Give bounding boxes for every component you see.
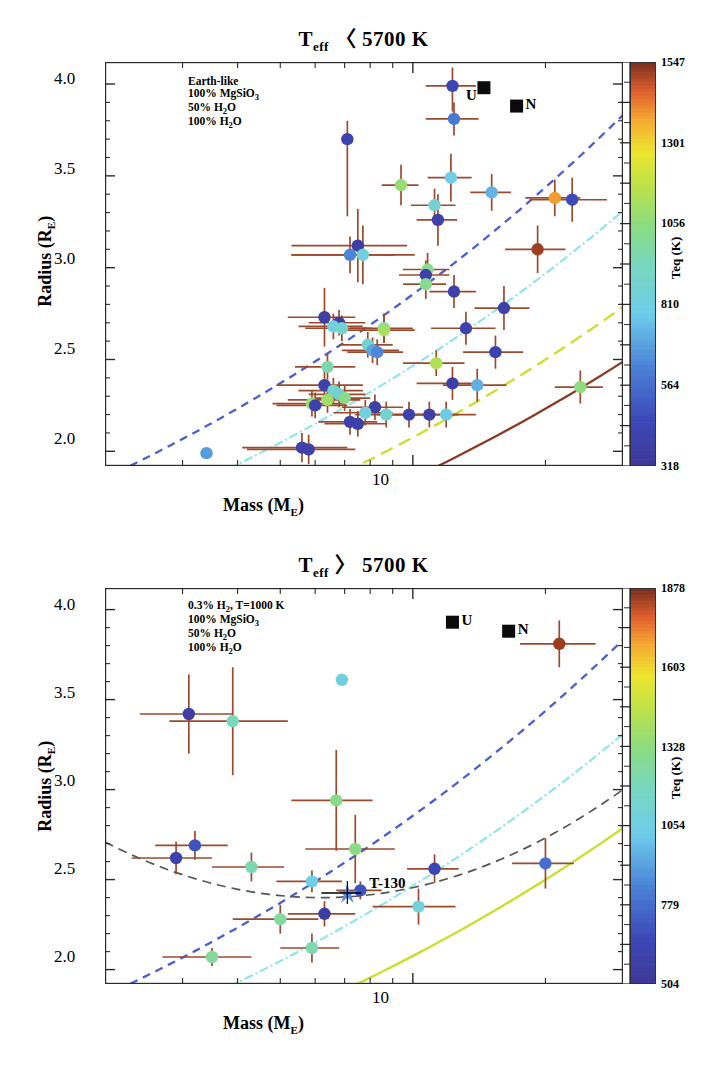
ylabel-sub: E — [45, 747, 57, 754]
data-point — [206, 951, 218, 963]
panel-top-title-sub: eff — [313, 39, 329, 54]
panel-bottom: Teff 〉 5700 K Radius (RE) Mass (ME) 4.0 … — [0, 530, 727, 1050]
data-point — [336, 322, 348, 334]
data-point — [336, 674, 348, 686]
ytick-label: 3.5 — [54, 159, 75, 179]
xlabel-sub: E — [291, 506, 298, 518]
data-point — [274, 913, 286, 925]
data-point — [352, 418, 364, 430]
panel-bottom-title-sub: eff — [313, 565, 329, 580]
panel-top-plot-area — [105, 62, 623, 466]
data-point — [420, 278, 432, 290]
ylabel-sub: E — [45, 222, 57, 229]
xlabel-sub: E — [291, 1024, 298, 1036]
data-point — [485, 186, 497, 198]
colorbar-tick-label: 1603 — [661, 660, 685, 675]
data-point — [354, 884, 366, 896]
data-point — [189, 839, 201, 851]
data-point — [445, 171, 457, 183]
data-point — [460, 322, 472, 334]
colorbar-tick-label: 318 — [661, 459, 679, 474]
data-point — [498, 302, 510, 314]
xtick-label: 10 — [372, 470, 389, 490]
data-point — [446, 377, 458, 389]
solar-system-marker — [502, 625, 515, 638]
colorbar-tick-label: 1301 — [661, 136, 685, 151]
data-point — [428, 863, 440, 875]
panel-bottom-plot-area — [105, 588, 623, 984]
ylabel-close: ) — [35, 216, 55, 222]
data-point — [489, 346, 501, 358]
data-point — [306, 942, 318, 954]
data-point — [170, 852, 182, 864]
data-point — [380, 408, 392, 420]
panel-top-colorbar-label: Teq (K) — [668, 213, 684, 303]
xlabel-text: Mass (M — [223, 495, 290, 515]
data-point — [200, 447, 212, 459]
data-point — [448, 285, 460, 297]
data-point — [318, 311, 330, 323]
colorbar-tick-label: 779 — [661, 898, 679, 913]
data-point — [432, 214, 444, 226]
data-point — [344, 249, 356, 261]
data-point — [371, 346, 383, 358]
data-point — [549, 192, 561, 204]
ytick-label: 2.0 — [54, 429, 75, 449]
panel-bottom-title-rest: 〉 5700 K — [335, 553, 429, 577]
data-point — [553, 638, 565, 650]
data-point — [359, 407, 371, 419]
colorbar-axis — [616, 588, 631, 984]
point-annotation: N — [526, 96, 537, 113]
solar-system-marker — [446, 616, 459, 629]
data-point — [395, 179, 407, 191]
panel-top-xlabel: Mass (ME) — [0, 495, 627, 518]
data-point — [403, 408, 415, 420]
ytick-label: 4.0 — [54, 69, 75, 89]
colorbar-tick-label: 564 — [661, 378, 679, 393]
xlabel-close: ) — [298, 495, 304, 515]
ylabel-text: Radius (R — [35, 229, 55, 307]
ytick-label: 2.5 — [54, 859, 75, 879]
panel-bottom-title-main: T — [298, 553, 313, 577]
panel-bottom-title: Teff 〉 5700 K — [0, 548, 727, 581]
panel-bottom-colorbar-label: Teq (K) — [668, 733, 684, 823]
data-point — [448, 113, 460, 125]
data-point — [531, 243, 543, 255]
panel-bottom-xlabel: Mass (ME) — [0, 1013, 627, 1036]
ytick-label: 2.5 — [54, 339, 75, 359]
data-point — [378, 324, 390, 336]
panel-top-title-main: T — [298, 27, 313, 51]
data-point — [349, 843, 361, 855]
data-point — [341, 133, 353, 145]
xlabel-close: ) — [298, 1013, 304, 1033]
panel-bottom-colorbar — [630, 588, 656, 984]
xtick-label: 10 — [372, 988, 389, 1008]
data-point — [446, 80, 458, 92]
data-point — [321, 361, 333, 373]
panel-top: Teff 〈 5700 K Radius (RE) Mass (ME) 4.0 … — [0, 0, 727, 530]
data-point — [338, 392, 350, 404]
data-point — [306, 875, 318, 887]
data-point — [412, 900, 424, 912]
panel-top-title-rest: 〈 5700 K — [335, 27, 429, 51]
data-point — [471, 379, 483, 391]
colorbar-tick-label: 1878 — [661, 581, 685, 596]
data-point — [428, 199, 440, 211]
colorbar-tick-label: 1547 — [661, 55, 685, 70]
data-point — [440, 408, 452, 420]
solar-system-marker — [477, 81, 490, 94]
xlabel-text: Mass (M — [223, 1013, 290, 1033]
point-annotation: U — [461, 612, 472, 629]
data-point — [566, 194, 578, 206]
ylabel-close: ) — [35, 741, 55, 747]
data-point — [309, 399, 321, 411]
figure-root: Teff 〈 5700 K Radius (RE) Mass (ME) 4.0 … — [0, 0, 727, 1081]
data-point — [539, 857, 551, 869]
data-point — [183, 708, 195, 720]
data-point — [321, 394, 333, 406]
colorbar-tick-label: 504 — [661, 977, 679, 992]
ytick-label: 3.0 — [54, 249, 75, 269]
data-point — [318, 908, 330, 920]
ytick-label: 2.0 — [54, 947, 75, 967]
ytick-label: 3.5 — [54, 683, 75, 703]
